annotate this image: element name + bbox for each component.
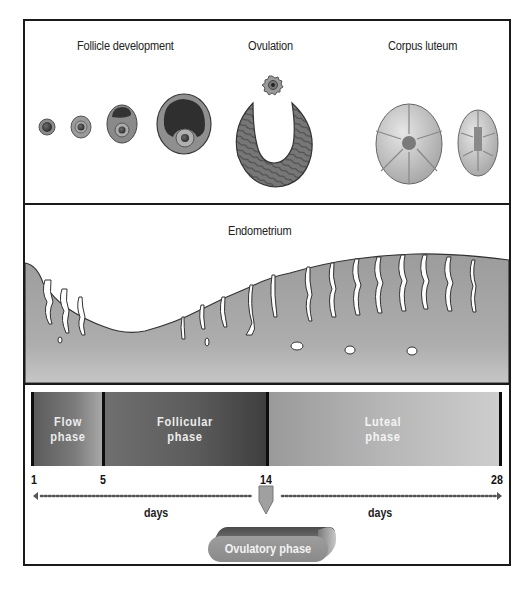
- regressing-corpus-luteum-icon: [458, 110, 498, 176]
- ovary-panel: Follicle development Ovulation Corpus lu…: [25, 21, 509, 201]
- primordial-follicle-icon: [39, 119, 55, 135]
- secondary-follicle-icon: [107, 105, 137, 143]
- days-label-right: days: [368, 506, 392, 520]
- endometrium-illustration: [25, 205, 509, 383]
- ovary-illustrations: [25, 21, 509, 201]
- right-days-arrow-icon: [282, 492, 502, 500]
- endometrium-panel: Endometrium: [25, 203, 509, 383]
- phase-timeline-panel: Flow phase Follicular phase Luteal phase…: [25, 383, 509, 566]
- ovulatory-phase-badge: Ovulatory phase: [208, 536, 328, 562]
- released-ovum-icon: [262, 76, 283, 95]
- left-days-arrow-icon: [33, 492, 252, 500]
- ovulation-marker-icon: [259, 486, 273, 514]
- primary-follicle-icon: [71, 116, 91, 138]
- ruptured-follicle-icon: [236, 103, 312, 187]
- mature-follicle-icon: [157, 94, 211, 154]
- days-label-left: days: [144, 506, 168, 520]
- diagram-frame: Follicle development Ovulation Corpus lu…: [23, 19, 511, 566]
- corpus-luteum-icon: [376, 104, 442, 184]
